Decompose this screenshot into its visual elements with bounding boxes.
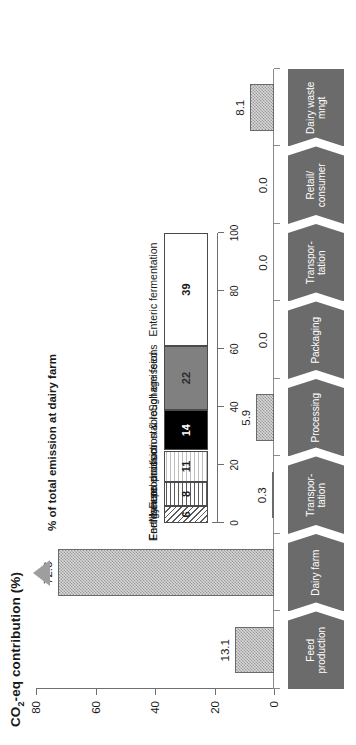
inset-segment-value: 8 <box>180 491 192 497</box>
x-tick <box>274 533 280 534</box>
axis-label-suffix: -eq contribution (%) <box>8 572 23 701</box>
inset-segment-value: 14 <box>180 424 192 436</box>
x-tick <box>274 301 280 302</box>
inset-segment-3: 11Manure emission stable <box>164 451 208 483</box>
inset-segment-value: 39 <box>180 283 192 295</box>
inset-tick-label: 0 <box>229 520 240 526</box>
flow-stage-label: Dairy waste mngt <box>305 79 328 137</box>
inset-tick-label: 80 <box>229 285 240 296</box>
bar-value-label: 0.0 <box>257 177 269 193</box>
inset-axis-line <box>217 233 218 523</box>
bar-8: 8.1 <box>250 85 274 132</box>
y-tick <box>36 689 37 695</box>
y-tick-label: 40 <box>149 701 161 729</box>
flow-stage-label: Transpor- tation <box>305 238 328 287</box>
bar-value-label: 0.0 <box>257 332 269 348</box>
inset-segment-value: 22 <box>180 372 192 384</box>
inset-segment-6: 39Enteric fermentation <box>164 233 208 346</box>
inset-stacked-bar-chart: % of total emission at dairy farm 100806… <box>46 223 246 531</box>
x-tick <box>274 688 280 689</box>
figure-canvas: CO2-eq contribution (%) 020406080 13.172… <box>0 0 356 745</box>
y-tick <box>96 689 97 695</box>
inset-tick <box>218 348 224 349</box>
bar-value-label: 0.0 <box>257 255 269 271</box>
inset-tick-label: 20 <box>229 459 240 470</box>
x-tick <box>274 146 280 147</box>
inset-tick-label: 40 <box>229 401 240 412</box>
supply-chain-flow-diagram: Feed productionDairy farmTranspor- tatio… <box>288 69 344 689</box>
y-tick <box>155 689 156 695</box>
flow-stage-label: Dairy farm <box>310 547 322 599</box>
y-tick-label: 60 <box>90 701 102 729</box>
x-axis-baseline <box>273 69 274 689</box>
inset-tick-label: 60 <box>229 343 240 354</box>
bar-value-label: 13.1 <box>219 639 231 661</box>
inset-segment-2: 8Fertiliser production <box>164 482 208 505</box>
y-tick-label: 80 <box>30 701 42 729</box>
y-tick <box>274 689 275 695</box>
bar-3: 0.3 <box>272 472 274 519</box>
inset-segment-legend: Enteric fermentation <box>147 243 159 337</box>
triangle-pointer-icon <box>33 560 50 586</box>
inset-tick <box>218 290 224 291</box>
bar-value-label: 8.1 <box>234 100 246 116</box>
inset-tick <box>218 464 224 465</box>
bar-2: 72.6 <box>58 550 274 597</box>
inset-tick <box>218 522 224 523</box>
y-tick <box>215 689 216 695</box>
flow-stage-4: Processing <box>288 379 344 457</box>
inset-tick <box>218 406 224 407</box>
axis-label-subscript: 2 <box>16 701 26 706</box>
flow-stage-label: Transpor- tation <box>305 471 328 520</box>
main-y-axis-label: CO2-eq contribution (%) <box>8 572 26 727</box>
inset-segment-legend: Soil emissions <box>147 344 159 411</box>
flow-stage-7: Retail/ consumer <box>288 147 344 225</box>
x-tick <box>274 611 280 612</box>
flow-stage-label: Processing <box>310 390 322 445</box>
flow-stage-label: Feed production <box>305 612 328 690</box>
flow-stage-5: Packaging <box>288 302 344 380</box>
x-tick <box>274 223 280 224</box>
inset-title: % of total emission at dairy farm <box>46 354 58 531</box>
flow-stage-label: Packaging <box>310 314 322 367</box>
inset-segment-value: 6 <box>180 511 192 517</box>
flow-stage-2: Dairy farm <box>288 534 344 612</box>
bar-1: 13.1 <box>235 627 274 674</box>
inset-tick-label: 100 <box>229 225 240 242</box>
flow-stage-1: Feed production <box>288 612 344 690</box>
inset-tick <box>218 232 224 233</box>
flow-stage-8: Dairy waste mngt <box>288 69 344 147</box>
y-tick-label: 20 <box>209 701 221 729</box>
axis-label-prefix: CO <box>8 707 23 727</box>
flow-stage-label: Retail/ consumer <box>305 160 328 210</box>
bar-4: 5.9 <box>256 395 274 442</box>
inset-segment-value: 11 <box>180 461 192 473</box>
x-tick <box>274 68 280 69</box>
inset-segment-5: 22Soil emissions <box>164 346 208 410</box>
inset-segment-4: 14Feed production & roughage feed <box>164 410 208 451</box>
y-tick-label: 0 <box>268 701 280 729</box>
inset-segment-1: 6Energy use <box>164 506 208 523</box>
inset-plot-area: 100806040200 6Energy use8Fertiliser prod… <box>164 233 208 523</box>
flow-stage-6: Transpor- tation <box>288 224 344 302</box>
bar-value-label: 0.3 <box>256 487 268 503</box>
x-tick <box>274 378 280 379</box>
x-tick <box>274 456 280 457</box>
flow-stage-3: Transpor- tation <box>288 457 344 535</box>
